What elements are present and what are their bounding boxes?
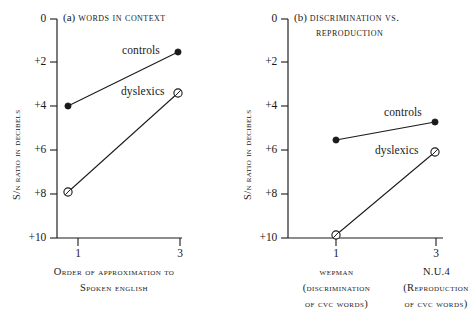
nu4-sub1: eproduction — [414, 282, 468, 293]
y-axis-title: S/N Ratio in Decibels — [242, 110, 254, 201]
nu4-label: N.U.4 — [423, 266, 450, 277]
panel-b-title-main: Discrimination vs. — [310, 11, 400, 23]
x-axis-caption-line1: Order of Approximation to — [0, 266, 228, 278]
series-label-controls: controls — [122, 44, 160, 57]
x-axis-caption-line1-rest: rder of Approximation to — [62, 266, 175, 277]
x-axis-caption-line2-rest: poken English — [86, 282, 148, 293]
x-tick-label-3: 3 — [170, 247, 190, 260]
x-tick-label-1: 1 — [68, 247, 88, 260]
panel-a-title-main: Words in Context — [78, 11, 165, 23]
data-point-dyslexics-3 — [431, 148, 439, 156]
data-point-controls-1 — [65, 103, 71, 109]
x-tick-label-1: 1 — [326, 247, 346, 260]
panel-b-title-prefix: (b) — [294, 11, 307, 23]
data-point-dyslexics-1 — [64, 188, 72, 196]
nu4-sub2: of cvc words — [404, 298, 463, 309]
x-axis-caption-line2: Spoken English — [0, 282, 228, 294]
y-tick-label-10: +10 — [12, 231, 46, 244]
y-axis-title-lead: S — [242, 194, 253, 200]
panel-b-title: (b)Discrimination vs. — [294, 11, 399, 23]
y-tick-label-0: 0 — [14, 12, 46, 25]
x-tick-label-3: 3 — [426, 247, 446, 260]
chart-panel-a: 0 +2 +4 +6 +8 +10 1 3 S/N Ratio in Decib… — [0, 0, 228, 321]
series-label-controls: controls — [384, 106, 422, 119]
x-group-caption-nu4-line3: of cvc words) — [356, 298, 473, 310]
x-axis-caption-line1-lead: O — [54, 266, 62, 277]
y-axis-title-rest: /N Ratio in Decibels — [11, 110, 22, 194]
y-axis-title-lead: S — [11, 194, 22, 200]
x-group-caption-nu4-line2: (Reproduction — [356, 282, 473, 294]
series-line-dyslexics — [68, 93, 178, 192]
data-point-controls-1 — [333, 137, 339, 143]
panel-a-title: (a)Words in Context — [63, 11, 166, 23]
data-point-controls-3 — [175, 49, 181, 55]
y-tick-label-10: +10 — [243, 231, 277, 244]
y-tick-label-2: +2 — [245, 55, 277, 68]
y-axis-title: S/N Ratio in Decibels — [11, 110, 23, 201]
x-group-caption-nu4-line1: N.U.4 — [364, 266, 473, 278]
panel-b-title-line2: Reproduction — [316, 26, 383, 38]
data-point-dyslexics-1 — [332, 231, 340, 239]
y-tick-label-0: 0 — [245, 12, 277, 25]
series-line-dyslexics — [336, 152, 435, 235]
data-point-controls-3 — [432, 119, 438, 125]
wepman-label: Wepman — [320, 266, 354, 277]
y-tick-label-2: +2 — [14, 55, 46, 68]
series-line-controls — [68, 52, 178, 106]
panel-a-title-prefix: (a) — [63, 11, 75, 23]
y-axis-title-rest: /N Ratio in Decibels — [242, 110, 253, 194]
chart-panel-b: 0 +2 +4 +6 +8 +10 1 3 S/N Ratio in Decib… — [228, 0, 457, 321]
series-line-controls — [336, 122, 435, 140]
series-label-dyslexics: dyslexics — [121, 85, 165, 98]
nu4-paren-close: ) — [464, 298, 468, 309]
data-point-dyslexics-3 — [174, 89, 182, 97]
series-label-dyslexics: dyslexics — [375, 144, 419, 157]
